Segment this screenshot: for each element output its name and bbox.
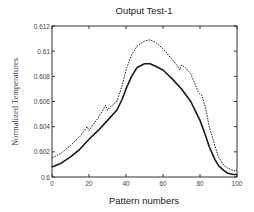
x-tick-label: 20 <box>85 180 93 187</box>
x-tick-label: 80 <box>196 180 204 187</box>
x-tick-label: 0 <box>50 180 54 187</box>
x-tick-label: 60 <box>159 180 167 187</box>
y-tick-label: 0.61 <box>37 48 50 55</box>
y-tick-label: 0.606 <box>34 98 51 105</box>
line-chart: Output Test-1 0204060801000.60.6020.6040… <box>0 0 254 212</box>
x-axis-label: Pattern numbers <box>109 195 179 206</box>
y-tick-label: 0.604 <box>34 123 51 130</box>
x-tick-label: 40 <box>122 180 130 187</box>
chart-title: Output Test-1 <box>116 5 173 16</box>
x-tick-label: 100 <box>232 180 243 187</box>
y-tick-label: 0.602 <box>34 148 51 155</box>
series-line-dotted <box>52 40 237 171</box>
y-axis-label: Normalized Temperatures <box>10 58 20 146</box>
series-line-solid <box>52 64 237 175</box>
plot-area: 0204060801000.60.6020.6040.6060.6080.610… <box>34 23 243 188</box>
y-tick-label: 0.612 <box>34 23 51 30</box>
y-tick-label: 0.6 <box>41 174 50 181</box>
y-tick-label: 0.608 <box>34 73 51 80</box>
plot-frame <box>52 26 237 177</box>
